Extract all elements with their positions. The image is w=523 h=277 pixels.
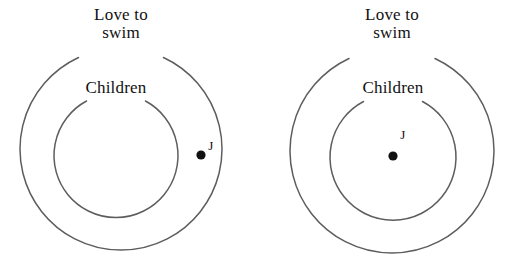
diagram-right: Love toswim Children J xyxy=(262,0,523,277)
outer-set-label-line2-right: swim xyxy=(373,23,411,42)
inner-set-circle-right xyxy=(330,102,456,221)
inner-set-circle-left xyxy=(54,101,178,218)
diagram-left: Love toswim Children J xyxy=(0,0,261,277)
point-label-j-right: J xyxy=(395,128,411,142)
inner-set-label-left: Children xyxy=(56,79,176,97)
point-marker-j-right xyxy=(388,151,397,160)
outer-set-label-line1-left: Love to xyxy=(94,5,148,24)
euler-diagram-figure: Love toswim Children J Love toswim Child… xyxy=(0,0,523,277)
outer-set-label-line2-left: swim xyxy=(102,23,140,42)
outer-set-label-left: Love toswim xyxy=(41,6,201,42)
outer-set-label-right: Love toswim xyxy=(312,6,472,42)
inner-set-label-right: Children xyxy=(333,79,453,97)
outer-set-label-line1-right: Love to xyxy=(365,5,419,24)
point-label-j-left: J xyxy=(203,139,219,153)
